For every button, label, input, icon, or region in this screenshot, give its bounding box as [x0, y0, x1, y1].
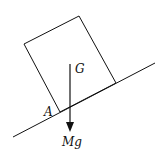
block-on-incline-diagram: G A Mg — [0, 0, 167, 152]
label-mg: Mg — [61, 135, 82, 149]
label-a: A — [43, 105, 53, 119]
weight-arrow-head-icon — [66, 122, 74, 132]
label-g: G — [75, 62, 85, 76]
